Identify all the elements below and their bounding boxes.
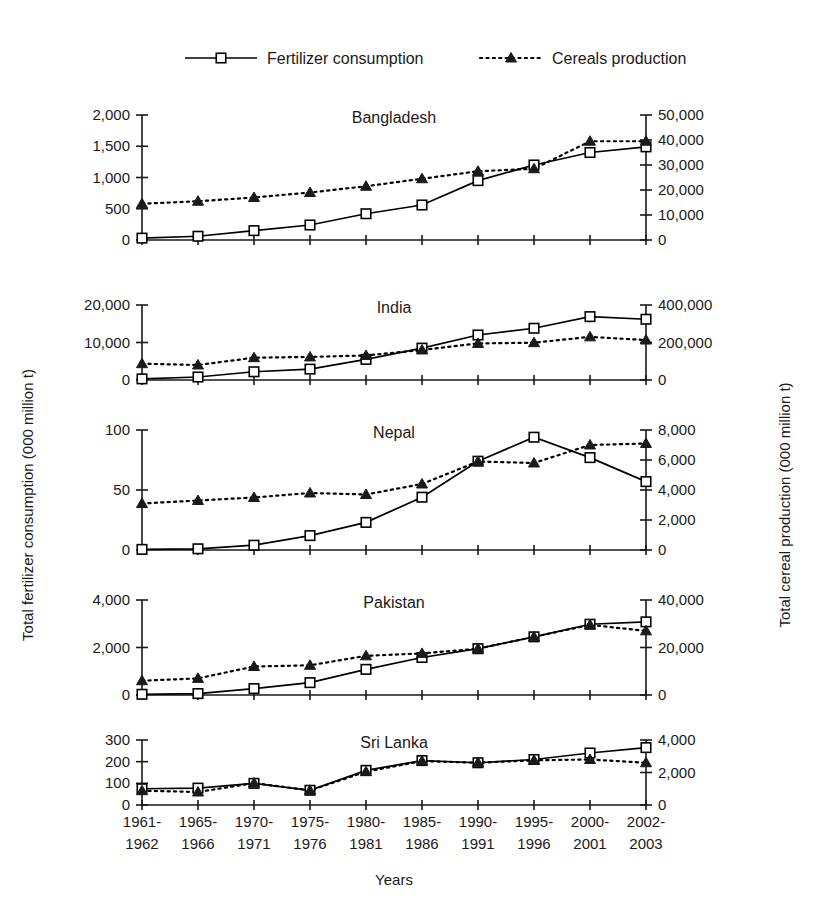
legend-label-cereals: Cereals production [552,50,686,67]
x-tick-label: 1961- [123,813,161,830]
ytick-label-left: 500 [105,200,130,217]
ytick-label-left: 50 [113,481,130,498]
x-tick-label: 1971 [237,835,270,852]
data-point-cereals [417,478,428,488]
x-tick-label: 1975- [291,813,329,830]
x-tick-label: 1966 [181,835,214,852]
x-tick-label: 2003 [629,835,662,852]
data-point-fertilizer [641,315,651,325]
ytick-label-right: 200,000 [658,334,712,351]
figure-container: Fertilizer consumptionCereals production… [0,0,821,921]
ytick-label-left: 2,000 [92,106,130,123]
series-line-cereals [142,141,646,204]
panel-axes [142,600,646,695]
panel-pakistan: Pakistan02,0004,000020,00040,000 [92,591,703,703]
data-point-fertilizer [193,372,203,382]
x-tick-label: 1996 [517,835,550,852]
data-point-fertilizer [641,477,651,487]
ytick-label-left: 0 [122,371,130,388]
panel-axes [142,305,646,380]
data-point-cereals [585,331,596,341]
data-point-fertilizer [417,492,427,502]
series-line-fertilizer [142,147,646,238]
data-point-fertilizer [137,690,147,700]
data-point-fertilizer [137,233,147,243]
data-point-fertilizer [417,200,427,210]
y-axis-title-right: Total cereal production (000 million t) [776,382,793,627]
x-tick-label: 1986 [405,835,438,852]
data-point-fertilizer [249,540,259,550]
y-axis-title-left: Total fertilizer consumption (000 millio… [19,369,36,641]
data-point-fertilizer [361,665,371,675]
data-point-fertilizer [305,531,315,541]
series-line-fertilizer [142,748,646,791]
data-point-fertilizer [193,232,203,242]
data-point-fertilizer [305,678,315,688]
x-tick-label: 1985- [403,813,441,830]
panel-nepal: Nepal05010002,0004,0006,0008,000 [105,421,696,558]
data-point-cereals [361,181,372,191]
series-line-fertilizer [142,622,646,694]
ytick-label-right: 0 [658,686,666,703]
ytick-label-left: 20,000 [84,296,130,313]
x-tick-label: 2002- [627,813,665,830]
ytick-label-right: 20,000 [658,181,704,198]
series-line-cereals [142,444,646,504]
x-tick-label: 1991 [461,835,494,852]
ytick-label-right: 8,000 [658,421,696,438]
ytick-label-left: 100 [105,421,130,438]
ytick-label-right: 2,000 [658,764,696,781]
legend-marker-square [216,53,226,63]
panel-india: India010,00020,0000200,000400,000 [84,296,712,388]
series-line-cereals [142,337,646,365]
data-point-cereals [641,438,652,448]
ytick-label-right: 0 [658,541,666,558]
data-point-fertilizer [249,226,259,236]
series-line-fertilizer [142,317,646,379]
ytick-label-left: 10,000 [84,334,130,351]
x-tick-label: 2001 [573,835,606,852]
x-tick-label: 1981 [349,835,382,852]
legend: Fertilizer consumptionCereals production [185,50,686,67]
data-point-cereals [137,198,148,208]
ytick-label-right: 6,000 [658,451,696,468]
panel-title: Pakistan [363,594,424,611]
ytick-label-right: 0 [658,231,666,248]
ytick-label-right: 10,000 [658,206,704,223]
panel-title: Nepal [373,424,415,441]
ytick-label-right: 40,000 [658,591,704,608]
x-tick-label: 1990- [459,813,497,830]
ytick-label-left: 4,000 [92,591,130,608]
data-point-cereals [137,358,148,368]
panel-sri-lanka: Sri Lanka010020030002,0004,000 [105,731,696,813]
x-tick-label: 1995- [515,813,553,830]
ytick-label-left: 200 [105,753,130,770]
data-point-fertilizer [137,374,147,384]
data-point-cereals [529,457,540,467]
ytick-label-right: 4,000 [658,731,696,748]
data-point-fertilizer [585,312,595,322]
x-axis-title: Years [375,871,413,888]
ytick-label-right: 50,000 [658,106,704,123]
data-point-fertilizer [137,545,147,555]
data-point-fertilizer [361,209,371,219]
ytick-label-right: 20,000 [658,639,704,656]
data-point-fertilizer [305,220,315,230]
ytick-label-right: 400,000 [658,296,712,313]
x-tick-label: 1962 [125,835,158,852]
x-tick-label: 1980- [347,813,385,830]
data-point-cereals [137,675,148,685]
data-point-fertilizer [249,367,259,377]
panel-title: Sri Lanka [360,734,428,751]
ytick-label-left: 1,500 [92,137,130,154]
data-point-fertilizer [529,324,539,334]
series-line-cereals [142,625,646,681]
x-axis-labels: 1961-19621965-19661970-19711975-19761980… [123,813,665,852]
series-line-fertilizer [142,437,646,549]
panel-title: India [377,299,412,316]
data-point-fertilizer [193,689,203,699]
ytick-label-right: 2,000 [658,511,696,528]
data-point-fertilizer [249,684,259,694]
data-point-fertilizer [641,743,651,753]
data-point-cereals [417,173,428,183]
